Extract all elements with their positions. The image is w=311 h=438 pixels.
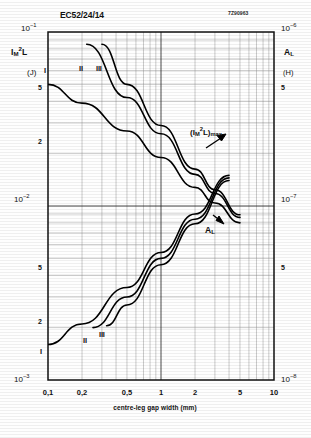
curve-AL-I xyxy=(48,175,229,344)
y-left-minor-5-upper: 5 xyxy=(38,84,42,91)
chart-canvas xyxy=(0,0,311,438)
y-right-tick-1e-7: 10−7 xyxy=(281,196,296,204)
x-axis-title: centre-leg gap width (mm) xyxy=(113,404,196,411)
y-left-minor-5-lower: 5 xyxy=(38,264,42,271)
y-left-tick-1e-2: 10−2 xyxy=(14,196,29,204)
y-right-axis-title: AL xyxy=(284,48,294,57)
y-left-minor-2-upper: 2 xyxy=(38,138,42,145)
y-left-tick-1e-3: 10−3 xyxy=(14,376,29,384)
y-right-minor-5-upper: 5 xyxy=(281,84,285,91)
chart-page: EC52/24/14 7Z90963 10−1 IM2L (J) 5 2 10−… xyxy=(0,0,311,438)
y-right-axis-unit: (H) xyxy=(283,69,293,77)
curve-label-top-I: I xyxy=(44,66,46,75)
y-left-minor-2-lower: 2 xyxy=(38,318,42,325)
curve-label-top-III: III xyxy=(96,64,102,73)
al-annotation: AL xyxy=(205,225,215,235)
x-tick-label: 1 xyxy=(159,388,163,397)
x-tick-label: 2 xyxy=(193,388,197,397)
curve-label-bottom-I: I xyxy=(40,347,42,356)
curve-label-bottom-III: III xyxy=(99,330,105,339)
x-tick-label: 5 xyxy=(238,388,242,397)
x-tick-label: 0,5 xyxy=(122,388,132,397)
curve-label-top-II: II xyxy=(79,64,83,73)
y-right-tick-1e-8: 10−8 xyxy=(281,376,296,384)
y-left-axis-unit: (J) xyxy=(27,69,36,77)
y-right-tick-1e-6: 10−6 xyxy=(281,25,296,33)
data-curves xyxy=(48,44,240,344)
y-left-tick-1e-1: 10−1 xyxy=(21,25,36,33)
x-tick-label: 0,1 xyxy=(43,388,53,397)
imax-annotation: (IM2L)max xyxy=(190,128,222,137)
y-right-minor-5-lower: 5 xyxy=(281,264,285,271)
y-left-axis-title: IM2L xyxy=(11,48,27,57)
x-tick-label: 0,2 xyxy=(77,388,87,397)
x-tick-label: 10 xyxy=(270,388,278,397)
curve-label-bottom-II: II xyxy=(83,336,87,345)
